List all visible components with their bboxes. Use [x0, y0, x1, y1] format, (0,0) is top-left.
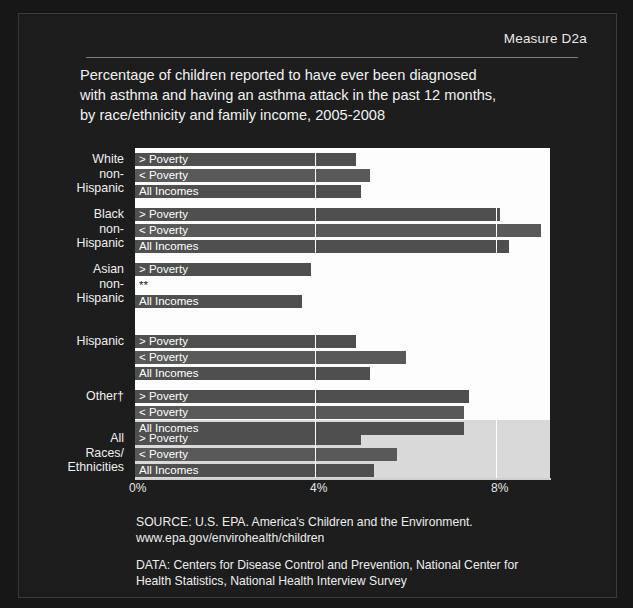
- bar-rows: > Poverty< PovertyAll Incomes> Poverty< …: [135, 148, 550, 478]
- bar-label-above-poverty: > Poverty: [139, 432, 215, 445]
- chart-title-line-1: Percentage of children reported to have …: [80, 65, 590, 85]
- x-axis-line: [135, 478, 551, 480]
- source-line-1: SOURCE: U.S. EPA. America's Children and…: [136, 514, 556, 530]
- category-label-white: White non- Hispanic: [76, 152, 124, 196]
- category-axis: White non- Hispanic Black non- Hispanic …: [22, 148, 132, 478]
- bar-label-below-poverty: < Poverty: [139, 351, 215, 364]
- plot-area: > Poverty< PovertyAll Incomes> Poverty< …: [135, 148, 550, 478]
- category-label-other: Other†: [86, 389, 124, 404]
- measure-label: Measure D2a: [504, 31, 587, 46]
- source-block: SOURCE: U.S. EPA. America's Children and…: [136, 514, 556, 589]
- bar-label-all-incomes: All Incomes: [139, 240, 215, 253]
- chart-title-line-3: by race/ethnicity and family income, 200…: [80, 105, 590, 125]
- data-line-2: Health Statistics, National Health Inter…: [136, 573, 556, 589]
- figure-page: Measure D2a Percentage of children repor…: [0, 0, 633, 608]
- gridline-8pct: [496, 148, 497, 478]
- bar-label-below-poverty: < Poverty: [139, 224, 215, 237]
- bar-label-all-incomes: All Incomes: [139, 464, 215, 477]
- category-label-all-races: All Races/ Ethnicities: [68, 431, 124, 475]
- bar-label-below-poverty: < Poverty: [139, 448, 215, 461]
- bar-label-below-poverty: < Poverty: [139, 406, 215, 419]
- tick-4pct: 4%: [310, 481, 327, 495]
- chart-title-line-2: with asthma and having an asthma attack …: [80, 85, 590, 105]
- data-line-1: DATA: Centers for Disease Control and Pr…: [136, 557, 556, 573]
- bar-label-all-incomes: All Incomes: [139, 185, 215, 198]
- chart-title: Percentage of children reported to have …: [80, 65, 590, 125]
- bar-label-below-poverty: < Poverty: [139, 169, 215, 182]
- bar-label-above-poverty: > Poverty: [139, 335, 215, 348]
- bar-label-above-poverty: > Poverty: [139, 263, 215, 276]
- category-label-hispanic: Hispanic: [76, 334, 124, 349]
- bar-label-above-poverty: > Poverty: [139, 208, 215, 221]
- category-label-black: Black non- Hispanic: [76, 207, 124, 251]
- category-label-asian: Asian non- Hispanic: [76, 262, 124, 306]
- gridline-4pct: [315, 148, 316, 478]
- title-divider: [86, 57, 578, 58]
- x-axis-ticks: 0% 4% 8%: [22, 481, 611, 501]
- tick-0pct: 0%: [129, 481, 146, 495]
- source-line-2: www.epa.gov/envirohealth/children: [136, 530, 556, 546]
- bar-label-above-poverty: > Poverty: [139, 390, 215, 403]
- suppressed-marker: **: [139, 279, 215, 292]
- slide-panel: Measure D2a Percentage of children repor…: [22, 17, 611, 592]
- bar-label-all-incomes: All Incomes: [139, 367, 215, 380]
- bar-label-above-poverty: > Poverty: [139, 153, 215, 166]
- tick-8pct: 8%: [491, 481, 508, 495]
- bar-label-all-incomes: All Incomes: [139, 295, 215, 308]
